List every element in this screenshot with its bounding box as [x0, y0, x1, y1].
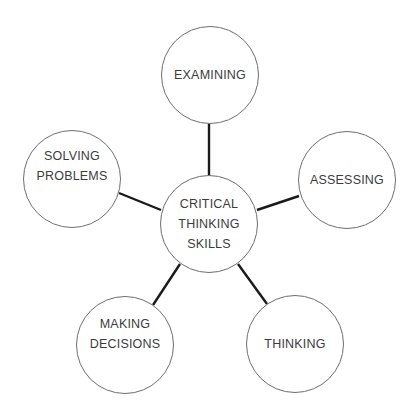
- node-label: ASSESSING: [310, 170, 384, 190]
- connector-solving-problems: [119, 193, 161, 210]
- node-critical-thinking-skills: CRITICAL THINKING SKILLS: [160, 175, 258, 273]
- node-label: THINKING: [264, 334, 325, 354]
- node-label-line: SOLVING: [36, 146, 107, 166]
- node-solving-problems: SOLVING PROBLEMS: [23, 130, 121, 228]
- node-label-line: MAKING: [90, 314, 161, 334]
- node-label-line: CRITICAL: [178, 194, 239, 214]
- connector-making-decisions: [153, 264, 180, 305]
- node-assessing: ASSESSING: [298, 131, 396, 229]
- node-examining: EXAMINING: [161, 26, 259, 124]
- node-label-line: DECISIONS: [90, 334, 161, 354]
- node-label-line: PROBLEMS: [36, 166, 107, 186]
- connector-thinking: [238, 264, 267, 304]
- node-label-line: SKILLS: [178, 234, 239, 254]
- node-label-line: THINKING: [178, 214, 239, 234]
- node-thinking: THINKING: [246, 295, 344, 393]
- node-label: EXAMINING: [174, 65, 246, 85]
- connector-assessing: [257, 196, 299, 210]
- node-making-decisions: MAKING DECISIONS: [76, 296, 174, 394]
